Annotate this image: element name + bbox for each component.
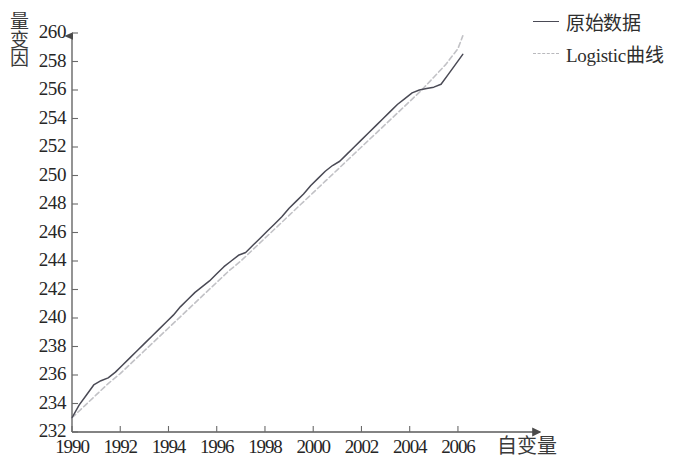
legend-label-logistic-curve: Logistic曲线 bbox=[566, 40, 663, 67]
y-tick-label: 240 bbox=[22, 306, 66, 328]
y-tick-label: 242 bbox=[22, 278, 66, 300]
plot-area bbox=[0, 0, 697, 466]
legend-label-original-data: 原始数据 bbox=[566, 8, 641, 35]
y-tick-label: 254 bbox=[22, 107, 66, 129]
y-tick-label: 258 bbox=[22, 50, 66, 72]
y-axis-ticks bbox=[72, 33, 78, 432]
line-chart: 量 变 因 2602582562542522502482462442422402… bbox=[0, 0, 697, 466]
y-tick-label: 234 bbox=[22, 392, 66, 414]
y-tick-label: 244 bbox=[22, 249, 66, 271]
legend-solid-line-icon bbox=[533, 21, 559, 22]
y-tick-label: 256 bbox=[22, 78, 66, 100]
y-tick-label: 248 bbox=[22, 192, 66, 214]
y-tick-label: 238 bbox=[22, 335, 66, 357]
y-tick-label: 250 bbox=[22, 164, 66, 186]
x-tick-label: 2006 bbox=[430, 436, 486, 458]
legend-dashed-line-icon bbox=[533, 53, 559, 54]
y-tick-label: 260 bbox=[22, 21, 66, 43]
legend-item-logistic-curve: Logistic曲线 bbox=[533, 40, 663, 67]
chart-legend: 原始数据 Logistic曲线 bbox=[533, 8, 663, 67]
legend-item-original-data: 原始数据 bbox=[533, 8, 663, 35]
y-tick-label: 252 bbox=[22, 135, 66, 157]
x-axis-title: 自变量 bbox=[497, 430, 557, 459]
x-axis-ticks bbox=[72, 426, 458, 432]
axis-lines bbox=[72, 36, 540, 432]
y-tick-label: 236 bbox=[22, 363, 66, 385]
series-logistic-curve bbox=[72, 36, 463, 418]
y-tick-label: 246 bbox=[22, 221, 66, 243]
